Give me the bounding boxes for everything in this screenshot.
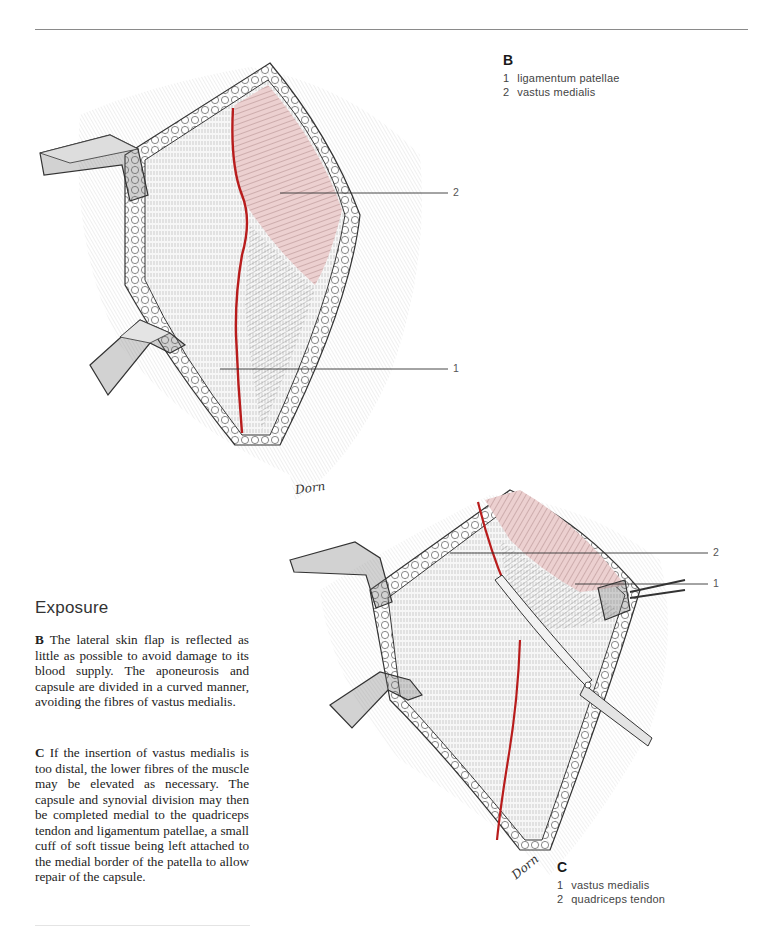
paragraph-c-text: If the insertion of vastus medialis is t… <box>35 745 249 884</box>
figure-b-illustration: 2 1 Dorn <box>30 45 460 505</box>
knee-exposure-b-drawing <box>30 45 460 505</box>
knee-exposure-c-drawing <box>280 480 750 880</box>
legend-c-item: 1 vastus medialis <box>557 878 665 892</box>
legend-c-letter: C <box>557 859 665 875</box>
legend-b-item: 2 vastus medialis <box>503 85 620 99</box>
bottom-rule <box>35 925 250 926</box>
legend-b-item: 1 ligamentum patellae <box>503 71 620 85</box>
top-rule <box>35 29 748 30</box>
figure-c-illustration: 2 1 Dorn <box>280 480 750 880</box>
legend-figure-b: B 1 ligamentum patellae 2 vastus mediali… <box>503 52 620 99</box>
paragraph-b-ref: B <box>35 632 44 647</box>
callout-b-2: 2 <box>453 186 459 198</box>
legend-b-letter: B <box>503 52 620 68</box>
legend-c-item: 2 quadriceps tendon <box>557 892 665 906</box>
paragraph-c: C If the insertion of vastus medialis is… <box>35 745 249 885</box>
paragraph-c-ref: C <box>35 745 45 760</box>
paragraph-b: B The lateral skin flap is reflected as … <box>35 632 249 710</box>
callout-b-1: 1 <box>453 362 459 374</box>
legend-figure-c: C 1 vastus medialis 2 quadriceps tendon <box>557 859 665 906</box>
callout-c-2: 2 <box>713 546 719 558</box>
paragraph-b-text: The lateral skin flap is reflected as li… <box>35 632 249 709</box>
section-title: Exposure <box>35 598 108 618</box>
callout-c-1: 1 <box>713 577 719 589</box>
